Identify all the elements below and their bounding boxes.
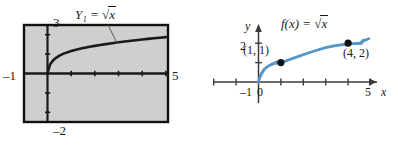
figure-square-root-function: Y₁ = √x 3 –1 5 –2 — [0, 0, 398, 147]
graph-function-label: f(x) = √x — [281, 17, 328, 30]
calculator-ymax-label: 3 — [53, 16, 60, 29]
calculator-equation-radicand: x — [108, 6, 116, 22]
graph-y-axis-arrow — [255, 24, 262, 32]
calculator-screen-graphic — [0, 0, 199, 147]
sqrt-symbol-icon: √x — [102, 8, 116, 21]
graph-function-radicand: x — [320, 15, 328, 31]
coordinate-plane-panel: f(x) = √x y x 2 –1 0 5 (1, 1) (4, 2) — [199, 0, 398, 147]
graph-point-1-1 — [277, 59, 284, 66]
graph-function-lhs: f(x) = — [281, 16, 314, 31]
calculator-xmin-label: –1 — [3, 69, 16, 82]
graph-x-tick-label-5: 5 — [365, 86, 371, 98]
calculator-xmax-label: 5 — [172, 69, 179, 82]
graph-x-tick-label-0: 0 — [257, 86, 263, 98]
sqrt-symbol-icon: √x — [314, 17, 328, 30]
graph-point-label-1-1: (1, 1) — [243, 44, 269, 56]
graph-x-axis-label: x — [381, 86, 386, 98]
graph-point-label-4-2: (4, 2) — [343, 47, 369, 59]
calculator-ymin-label: –2 — [53, 124, 66, 137]
graph-x-tick-label-m1: –1 — [240, 86, 252, 98]
calculator-equation-label: Y₁ = √x — [75, 8, 116, 21]
graph-y-axis-label: y — [245, 20, 250, 32]
calculator-screen-panel: Y₁ = √x 3 –1 5 –2 — [0, 0, 199, 147]
calculator-equation-lhs: Y₁ = — [75, 7, 102, 22]
